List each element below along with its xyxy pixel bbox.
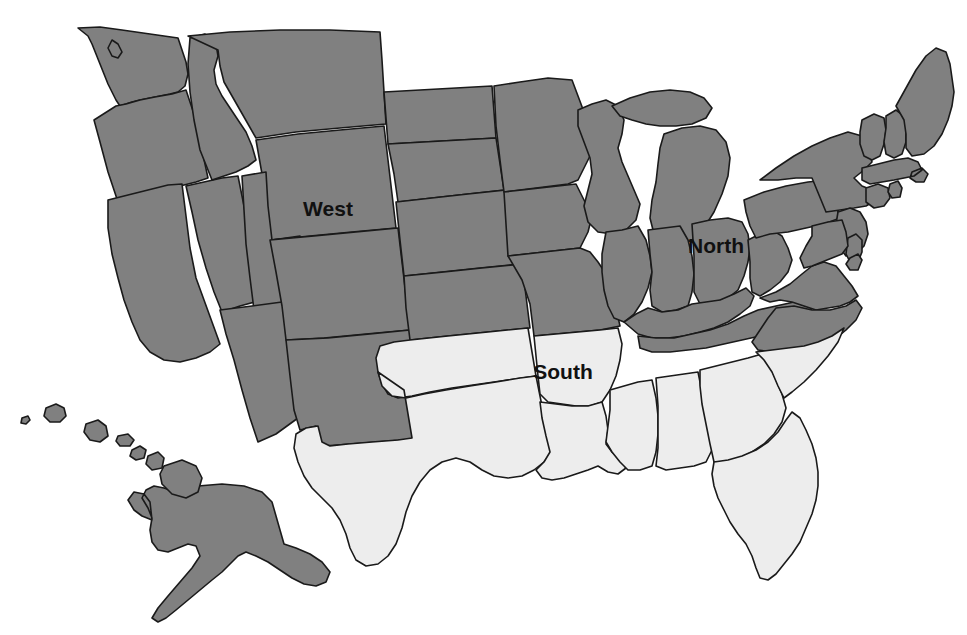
state-north-dakota[interactable] (384, 86, 496, 144)
state-wyoming[interactable] (256, 126, 396, 240)
region-label-south: South (533, 360, 592, 383)
state-iowa[interactable] (504, 184, 592, 256)
us-regions-map-figure: West North South (0, 0, 967, 635)
region-label-north: North (688, 234, 744, 257)
state-rhode-island[interactable] (888, 181, 902, 198)
state-colorado[interactable] (270, 228, 410, 340)
state-kansas[interactable] (404, 264, 530, 340)
us-map-svg[interactable]: West North South (0, 0, 967, 635)
state-nebraska[interactable] (396, 190, 520, 276)
region-label-west: West (303, 197, 353, 220)
